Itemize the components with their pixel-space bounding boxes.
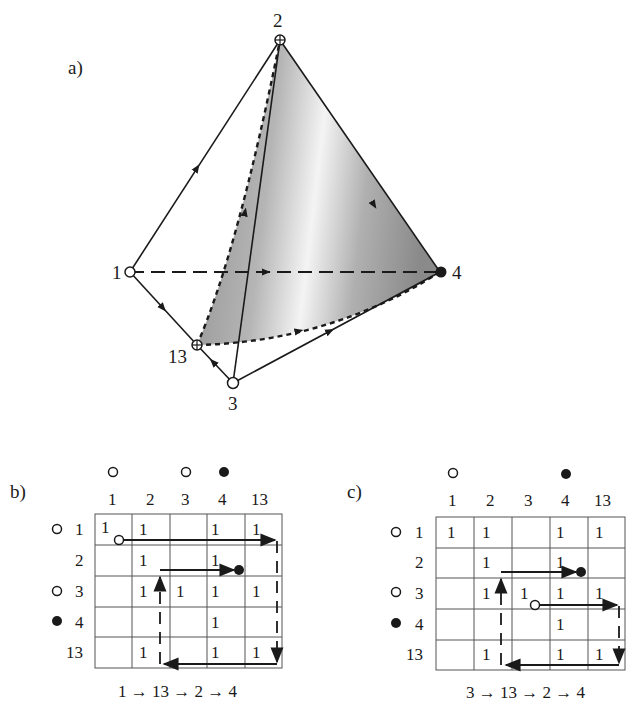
row-marker-4-filled-circle [391, 618, 401, 628]
matrix-cell: 1 [101, 518, 110, 537]
row-header: 1 [415, 523, 424, 542]
row-marker-1-open-circle [53, 525, 62, 534]
shaded-face-13-2-4 [197, 40, 440, 345]
col-header: 13 [251, 490, 268, 509]
matrix-cell: 1 [176, 582, 185, 601]
path-end-filled-circle [234, 565, 244, 575]
matrix-cell: 1 [139, 643, 148, 662]
panel-a-label: a) [68, 57, 83, 79]
col-header: 13 [594, 491, 611, 510]
panel-a-tetrahedron: a) 2 1 [68, 10, 462, 414]
col-marker-3-open-circle [182, 468, 191, 477]
panel-c-matrix: c) 1 2 3 4 13 1 2 3 4 13 1 1 1 1 [347, 469, 625, 703]
matrix-cell: 1 [556, 645, 565, 664]
vertex-13-label: 13 [168, 346, 187, 367]
matrix-cell: 1 [252, 520, 261, 539]
figure-canvas: a) 2 1 [0, 0, 643, 725]
col-header: 2 [486, 491, 495, 510]
vertex-2-circled-plus-icon [275, 35, 285, 45]
panel-b-matrix: b) 1 2 3 4 13 1 2 3 4 13 [10, 467, 282, 701]
col-marker-1-open-circle [449, 469, 458, 478]
vertex-4-label: 4 [452, 262, 462, 283]
matrix-cell: 1 [556, 615, 565, 634]
vertex-3-open-circle [228, 378, 239, 389]
col-marker-1-open-circle [109, 468, 118, 477]
matrix-cell: 1 [520, 584, 529, 603]
matrix-cell: 1 [556, 553, 565, 572]
row-header: 3 [415, 584, 424, 603]
row-marker-4-filled-circle [52, 616, 62, 626]
matrix-cell: 1 [211, 551, 220, 570]
matrix-cell: 1 [556, 523, 565, 542]
row-marker-1-open-circle [392, 528, 401, 537]
edge-1-13 [130, 272, 197, 345]
matrix-cell: 1 [482, 645, 491, 664]
col-marker-4-filled-circle [561, 469, 571, 479]
vertex-1-label: 1 [112, 262, 122, 283]
matrix-cell: 1 [556, 584, 565, 603]
col-header: 4 [561, 491, 570, 510]
row-header: 3 [75, 582, 84, 601]
row-header: 13 [66, 643, 83, 662]
col-header: 1 [108, 490, 117, 509]
matrix-cell: 1 [211, 520, 220, 539]
matrix-cell: 1 [447, 523, 456, 542]
panel-c-label: c) [347, 481, 362, 503]
matrix-cell: 1 [139, 582, 148, 601]
matrix-cell: 1 [482, 523, 491, 542]
col-marker-4-filled-circle [219, 467, 229, 477]
matrix-cell: 1 [595, 584, 604, 603]
vertex-4-filled-circle [436, 267, 447, 278]
vertex-13-circled-plus-icon [192, 340, 202, 350]
vertex-2-label: 2 [273, 10, 283, 31]
vertex-3-label: 3 [228, 393, 238, 414]
path-caption-b: 1 → 13 → 2 → 4 [118, 682, 238, 701]
vertex-1-open-circle [125, 267, 135, 277]
path-start-open-circle [531, 601, 540, 610]
matrix-cell: 1 [595, 645, 604, 664]
matrix-cell: 1 [211, 643, 220, 662]
row-header: 4 [415, 615, 424, 634]
matrix-cell: 1 [252, 582, 261, 601]
matrix-cell: 1 [252, 643, 261, 662]
row-header: 2 [415, 553, 424, 572]
matrix-cell: 1 [139, 551, 148, 570]
row-header: 2 [75, 551, 84, 570]
path-end-filled-circle [576, 567, 586, 577]
matrix-cell: 1 [139, 520, 148, 539]
row-header: 13 [406, 645, 423, 664]
col-header: 4 [218, 490, 227, 509]
col-header: 1 [448, 491, 457, 510]
matrix-cell: 1 [211, 613, 220, 632]
row-marker-3-open-circle [392, 588, 401, 597]
matrix-cell: 1 [482, 584, 491, 603]
row-header: 1 [75, 520, 84, 539]
col-header: 3 [524, 491, 533, 510]
path-start-open-circle [115, 536, 124, 545]
col-header: 3 [181, 490, 190, 509]
panel-b-label: b) [10, 481, 26, 503]
edge-3-13 [197, 345, 233, 383]
matrix-cell: 1 [211, 582, 220, 601]
row-header: 4 [75, 613, 84, 632]
path-caption-c: 3 → 13 → 2 → 4 [466, 683, 586, 702]
row-marker-3-open-circle [53, 587, 62, 596]
matrix-cell: 1 [595, 523, 604, 542]
col-header: 2 [146, 490, 155, 509]
matrix-cell: 1 [482, 553, 491, 572]
